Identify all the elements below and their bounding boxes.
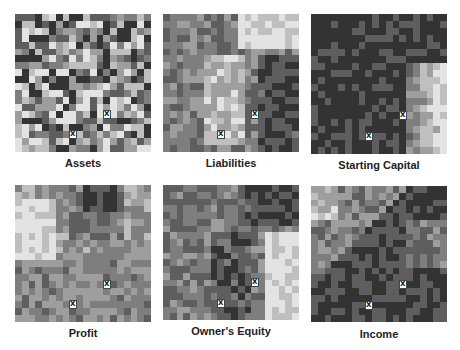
map-cell bbox=[359, 84, 366, 91]
map-cell bbox=[258, 118, 265, 125]
map-cell bbox=[22, 21, 29, 28]
map-cell bbox=[318, 70, 325, 77]
map-cell bbox=[427, 42, 434, 49]
map-cell bbox=[211, 28, 218, 35]
map-cell bbox=[359, 35, 366, 42]
map-cell bbox=[433, 56, 440, 63]
map-cell bbox=[379, 234, 386, 241]
map-cell bbox=[279, 307, 286, 314]
map-cell bbox=[359, 274, 366, 281]
map-cell bbox=[90, 111, 97, 118]
map-cell bbox=[238, 124, 245, 131]
map-cell bbox=[76, 212, 83, 219]
map-cell bbox=[379, 77, 386, 84]
map-cell bbox=[56, 288, 63, 295]
map-cell bbox=[292, 62, 299, 69]
map-cell bbox=[311, 315, 318, 322]
map-cell bbox=[258, 69, 265, 76]
map-cell bbox=[63, 104, 70, 111]
map-cell bbox=[22, 131, 29, 138]
map-cell bbox=[292, 111, 299, 118]
map-cell bbox=[83, 138, 90, 145]
map-cell bbox=[97, 76, 104, 83]
map-cell bbox=[197, 42, 204, 49]
map-cell bbox=[311, 220, 318, 227]
map-cell bbox=[251, 246, 258, 253]
map-cell bbox=[177, 145, 184, 152]
map-cell bbox=[131, 104, 138, 111]
map-cell bbox=[56, 185, 63, 192]
map-cell bbox=[318, 220, 325, 227]
map-cell bbox=[124, 131, 131, 138]
map-cell bbox=[279, 293, 286, 300]
map-cell bbox=[224, 55, 231, 62]
map-cell bbox=[427, 105, 434, 112]
map-cell bbox=[393, 119, 400, 126]
map-cell bbox=[386, 247, 393, 254]
map-cell bbox=[386, 274, 393, 281]
map-cell bbox=[183, 273, 190, 280]
map-cell bbox=[124, 253, 131, 260]
map-cell bbox=[427, 84, 434, 91]
map-cell bbox=[352, 35, 359, 42]
map-cell bbox=[420, 98, 427, 105]
map-cell bbox=[137, 219, 144, 226]
map-cell bbox=[231, 83, 238, 90]
map-cell bbox=[42, 308, 49, 315]
map-cell bbox=[359, 98, 366, 105]
map-cell bbox=[338, 140, 345, 147]
map-cell bbox=[49, 267, 56, 274]
map-cell bbox=[211, 49, 218, 56]
map-cell bbox=[231, 21, 238, 28]
map-cell bbox=[56, 308, 63, 315]
map-cell bbox=[420, 63, 427, 70]
map-cell bbox=[83, 267, 90, 274]
map-cell bbox=[131, 76, 138, 83]
map-cell bbox=[272, 111, 279, 118]
map-cell bbox=[83, 35, 90, 42]
map-cell bbox=[124, 185, 131, 192]
map-cell bbox=[292, 83, 299, 90]
map-cell bbox=[245, 76, 252, 83]
map-cell bbox=[103, 308, 110, 315]
map-cell bbox=[183, 145, 190, 152]
map-cell bbox=[427, 49, 434, 56]
map-cell bbox=[69, 226, 76, 233]
map-cell bbox=[279, 83, 286, 90]
map-cell bbox=[137, 118, 144, 125]
map-cell bbox=[352, 147, 359, 154]
map-cell bbox=[35, 240, 42, 247]
map-cell bbox=[177, 300, 184, 307]
map-cell bbox=[131, 295, 138, 302]
map-cell bbox=[440, 200, 447, 207]
map-cell bbox=[399, 28, 406, 35]
map-cell bbox=[69, 288, 76, 295]
map-cell bbox=[63, 97, 70, 104]
panel-profit: Profit XX bbox=[15, 185, 151, 350]
map-cell bbox=[440, 147, 447, 154]
map-cell bbox=[372, 315, 379, 322]
map-cell bbox=[117, 111, 124, 118]
map-cell bbox=[352, 254, 359, 261]
map-cell bbox=[318, 14, 325, 21]
map-cell bbox=[204, 104, 211, 111]
map-cell bbox=[183, 83, 190, 90]
map-cell bbox=[352, 220, 359, 227]
map-cell bbox=[190, 199, 197, 206]
map-cell bbox=[413, 234, 420, 241]
map-cell bbox=[204, 286, 211, 293]
map-cell bbox=[42, 185, 49, 192]
map-cell bbox=[137, 55, 144, 62]
map-cell bbox=[190, 21, 197, 28]
map-cell bbox=[399, 213, 406, 220]
map-cell bbox=[265, 124, 272, 131]
map-cell bbox=[35, 295, 42, 302]
map-cell bbox=[265, 259, 272, 266]
map-cell bbox=[76, 69, 83, 76]
map-cell bbox=[211, 219, 218, 226]
map-cell bbox=[183, 205, 190, 212]
map-cell bbox=[124, 212, 131, 219]
map-cell bbox=[338, 268, 345, 275]
map-cell bbox=[76, 138, 83, 145]
map-cell bbox=[224, 286, 231, 293]
